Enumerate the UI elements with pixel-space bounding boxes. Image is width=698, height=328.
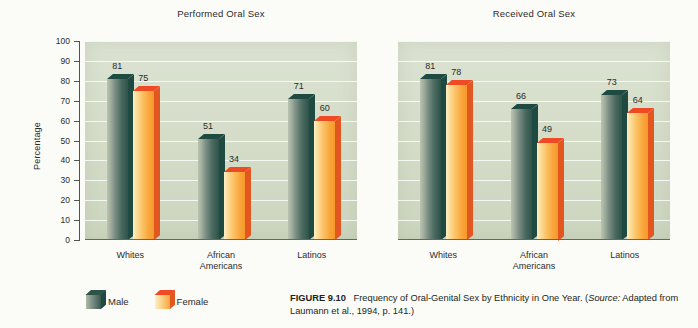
figure-source-label: Source: — [588, 293, 620, 303]
y-tick-label: 60 — [48, 117, 70, 126]
bar-value-label: 71 — [282, 82, 315, 91]
y-tick-mark — [74, 101, 79, 102]
gridline — [85, 41, 357, 42]
y-tick-label: 50 — [48, 137, 70, 146]
y-tick-label: 0 — [48, 236, 70, 245]
y-tick-mark — [74, 41, 79, 42]
bar-female-latinos — [627, 113, 648, 240]
bar-value-label: 66 — [505, 92, 538, 101]
bar-value-label: 34 — [218, 155, 251, 164]
figure-caption: FIGURE 9.10 Frequency of Oral-Genital Se… — [290, 292, 680, 318]
y-tick-label: 70 — [48, 97, 70, 106]
y-axis-line — [79, 41, 80, 241]
x-axis-baseline-left — [85, 239, 357, 240]
bar-male-whites — [420, 79, 441, 240]
legend-entry-female: Female — [155, 294, 209, 309]
y-tick-label: 80 — [48, 77, 70, 86]
figure-page: Performed Oral Sex Received Oral Sex Per… — [0, 0, 698, 328]
bar-value-label: 60 — [308, 104, 341, 113]
chart-legend: Male Female — [86, 294, 234, 309]
y-tick-mark — [74, 200, 79, 201]
y-tick-mark — [74, 141, 79, 142]
bar-value-label: 64 — [621, 96, 654, 105]
bar-value-label: 51 — [192, 122, 225, 131]
bar-female-latinos — [314, 121, 335, 240]
bar-value-label: 73 — [595, 78, 628, 87]
y-tick-mark — [74, 160, 79, 161]
bar-male-whites — [107, 79, 128, 240]
y-tick-mark — [74, 121, 79, 122]
y-tick-mark — [74, 240, 79, 241]
legend-swatch-female-icon — [155, 294, 170, 309]
gridline — [398, 41, 670, 42]
bar-female-african-americans — [224, 172, 245, 240]
bar-female-whites — [133, 91, 154, 240]
bar-value-label: 81 — [101, 62, 134, 71]
bar-female-african-americans — [537, 143, 558, 241]
bar-female-whites — [446, 85, 467, 240]
bar-male-latinos — [288, 99, 309, 240]
chart-panel-performed: 817551347160 — [85, 41, 357, 240]
bar-male-african-americans — [511, 109, 532, 240]
legend-swatch-male-icon — [86, 294, 101, 309]
figure-caption-text: Frequency of Oral-Genital Sex by Ethnici… — [354, 293, 583, 303]
chart-title-left: Performed Oral Sex — [85, 8, 357, 19]
legend-label-female: Female — [177, 296, 209, 307]
bar-male-african-americans — [198, 139, 219, 240]
y-axis-title: Percentage — [32, 122, 42, 170]
y-tick-mark — [74, 81, 79, 82]
x-axis-baseline-right — [398, 239, 670, 240]
figure-label: FIGURE 9.10 — [290, 293, 346, 303]
y-tick-label: 30 — [48, 176, 70, 185]
legend-entry-male: Male — [86, 294, 129, 309]
y-tick-mark — [74, 180, 79, 181]
y-tick-mark — [74, 220, 79, 221]
y-tick-label: 100 — [48, 37, 70, 46]
y-tick-mark — [74, 61, 79, 62]
bar-value-label: 49 — [531, 125, 564, 134]
x-axis-label: Latinos — [571, 250, 678, 261]
bar-male-latinos — [601, 95, 622, 240]
x-axis-label: Latinos — [258, 250, 365, 261]
y-tick-label: 90 — [48, 57, 70, 66]
bar-value-label: 78 — [440, 68, 473, 77]
y-tick-label: 10 — [48, 216, 70, 225]
y-tick-label: 20 — [48, 196, 70, 205]
chart-panel-received: 817866497364 — [398, 41, 670, 240]
legend-label-male: Male — [108, 296, 129, 307]
y-tick-label: 40 — [48, 156, 70, 165]
chart-title-right: Received Oral Sex — [398, 8, 670, 19]
bar-value-label: 75 — [127, 74, 160, 83]
